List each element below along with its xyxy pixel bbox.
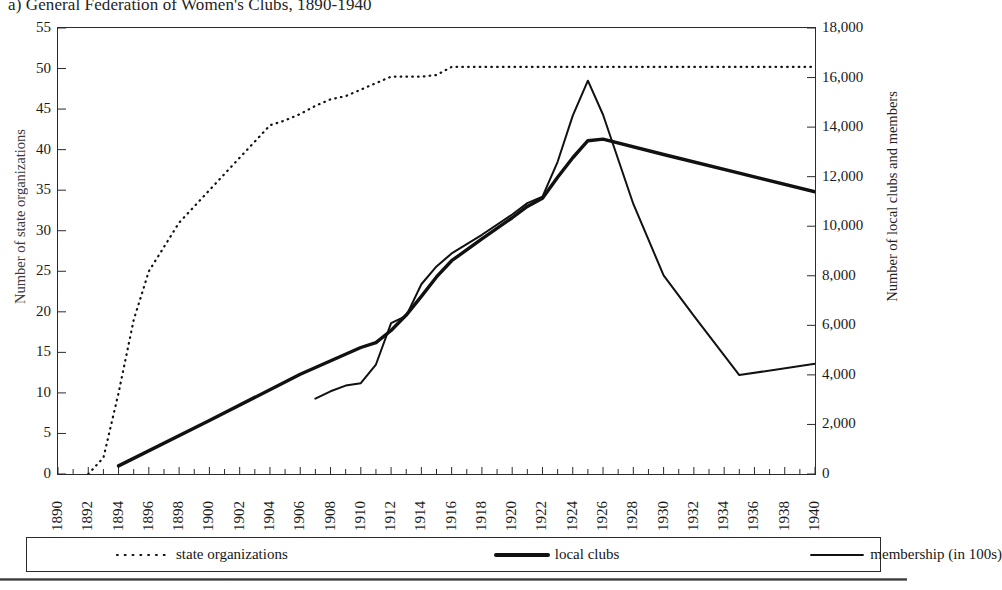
- x-axis-tick-label: 1938: [777, 501, 792, 531]
- y-axis-right-tick-label: 14,000: [822, 119, 863, 134]
- legend-item-label: state organizations: [176, 547, 288, 562]
- y-axis-left-tick-label: 15: [36, 344, 51, 359]
- x-axis-ticks: 1890189218941896189819001902190419061908…: [57, 479, 816, 531]
- y-axis-right-tick-label: 10,000: [822, 218, 863, 233]
- x-axis-tick-label: 1902: [232, 501, 247, 531]
- x-axis-tick-label: 1930: [656, 501, 671, 531]
- y-axis-right-tick-label: 2,000: [822, 416, 856, 431]
- y-axis-right-tick-label: 6,000: [822, 317, 856, 332]
- plot-area: [57, 27, 816, 475]
- series-line-membership-in-s: [315, 81, 815, 399]
- x-axis-tick-label: 1900: [201, 501, 216, 531]
- y-axis-right-title: Number of local clubs and members: [884, 87, 901, 307]
- y-axis-right-tick-label: 18,000: [822, 20, 863, 35]
- y-axis-left-ticks: 0510152025303540455055: [14, 27, 51, 475]
- y-axis-right-tick-label: 12,000: [822, 168, 863, 183]
- series-line-state-organizations: [88, 67, 815, 474]
- y-axis-left-tick-label: 30: [36, 222, 51, 237]
- y-axis-right-tick-label: 4,000: [822, 366, 856, 381]
- legend-item-label: membership (in 100s): [870, 547, 1002, 562]
- x-axis-tick-label: 1908: [323, 501, 338, 531]
- x-axis-tick-label: 1916: [444, 501, 459, 531]
- y-axis-right-tick-label: 8,000: [822, 267, 856, 282]
- x-axis-tick-label: 1918: [474, 501, 489, 531]
- legend-item: state organizations: [115, 547, 288, 562]
- x-axis-tick-label: 1890: [50, 501, 65, 531]
- x-axis-tick-label: 1898: [171, 501, 186, 531]
- y-axis-left-tick-label: 50: [36, 60, 51, 75]
- legend-item: membership (in 100s): [809, 547, 1002, 562]
- x-axis-tick-label: 1896: [141, 501, 156, 531]
- y-axis-left-tick-label: 25: [36, 263, 51, 278]
- page-divider: [0, 578, 907, 581]
- x-axis-tick-label: 1920: [504, 501, 519, 531]
- y-axis-right-tick-label: 0: [822, 466, 830, 481]
- y-axis-right-tick-label: 16,000: [822, 69, 863, 84]
- x-axis-tick-label: 1912: [383, 501, 398, 531]
- legend-swatch-dotted-icon: [115, 549, 171, 561]
- x-axis-tick-label: 1892: [80, 501, 95, 531]
- x-axis-tick-label: 1906: [292, 501, 307, 531]
- y-axis-left-tick-label: 45: [36, 101, 51, 116]
- y-axis-left-tick-label: 5: [44, 425, 52, 440]
- y-axis-right-ticks: 02,0004,0006,0008,00010,00012,00014,0001…: [822, 27, 882, 475]
- x-axis-tick-label: 1932: [686, 501, 701, 531]
- legend-swatch-thin-solid-icon: [809, 549, 865, 561]
- series-line-local-clubs: [119, 139, 815, 466]
- legend-swatch-thick-solid-icon: [494, 549, 550, 561]
- y-axis-left-tick-label: 10: [36, 384, 51, 399]
- legend-item-label: local clubs: [555, 547, 620, 562]
- legend-item: local clubs: [494, 547, 620, 562]
- x-axis-tick-label: 1914: [413, 501, 428, 531]
- chart-container: Number of state organizations Number of …: [0, 18, 907, 538]
- plot-svg: [58, 28, 815, 474]
- x-axis-tick-label: 1928: [625, 501, 640, 531]
- x-axis-tick-label: 1926: [595, 501, 610, 531]
- y-axis-left-tick-label: 0: [44, 466, 52, 481]
- x-axis-tick-label: 1924: [565, 501, 580, 531]
- x-axis-tick-label: 1934: [716, 501, 731, 531]
- x-axis-tick-label: 1922: [534, 501, 549, 531]
- y-axis-left-tick-label: 35: [36, 182, 51, 197]
- x-axis-tick-label: 1904: [262, 501, 277, 531]
- y-axis-left-tick-label: 20: [36, 303, 51, 318]
- x-axis-tick-label: 1940: [807, 501, 822, 531]
- chart-legend: state organizationslocal clubsmembership…: [26, 537, 881, 572]
- x-axis-tick-label: 1910: [353, 501, 368, 531]
- x-axis-tick-label: 1894: [111, 501, 126, 531]
- x-axis-tick-label: 1936: [746, 501, 761, 531]
- y-axis-left-tick-label: 55: [36, 20, 51, 35]
- page-title: a) General Federation of Women's Clubs, …: [8, 0, 372, 15]
- y-axis-left-tick-label: 40: [36, 141, 51, 156]
